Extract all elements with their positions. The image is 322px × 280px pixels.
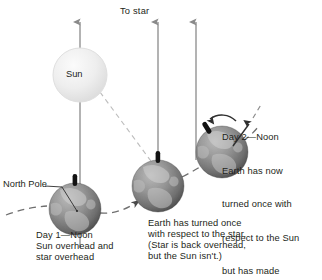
diagram-canvas: To star Sun North Pole Day 1—Noon Sun ov… — [0, 0, 322, 280]
day2-caption-line-4: respect to the Sun — [222, 233, 300, 244]
day2-caption-line-1: Day 2—Noon — [222, 132, 300, 143]
orbit-segment-earth1-earth2 — [100, 200, 140, 213]
earth-midday-pole — [156, 151, 161, 163]
day1-caption: Day 1—Noon Sun overhead and star overhea… — [36, 230, 114, 263]
sunlight-ray-earth2 — [100, 92, 156, 168]
day2-caption-line-3: turned once with — [222, 199, 300, 210]
day2-caption-line-2: Earth has now — [222, 166, 300, 177]
north-pole-label-leader — [45, 186, 62, 187]
sun-label: Sun — [66, 69, 83, 80]
orbit-segment-before-earth1 — [6, 206, 47, 215]
day2-caption: Day 2—Noon Earth has now turned once wit… — [222, 110, 300, 280]
north-pole-label: North Pole — [3, 179, 47, 190]
earth-day1-pole — [73, 174, 78, 186]
to-star-label: To star — [120, 6, 149, 17]
earth-day1 — [49, 174, 101, 235]
earth-midday — [132, 151, 184, 212]
day2-caption-line-5: but has made — [222, 266, 300, 277]
